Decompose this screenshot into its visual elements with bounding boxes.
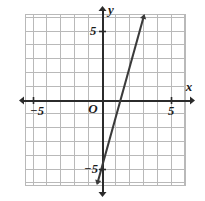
y-tick-label-negative-5: −5 <box>84 162 98 176</box>
y-tick-label-positive-5: 5 <box>90 24 96 38</box>
graph-canvas: x y O −5 5 5 −5 <box>0 0 205 201</box>
x-tick-label-positive-5: 5 <box>168 104 174 118</box>
axis-lines <box>19 6 195 197</box>
y-axis-label: y <box>106 2 114 17</box>
x-axis-label: x <box>185 79 193 94</box>
x-tick-label-negative-5: −5 <box>30 104 44 118</box>
origin-label: O <box>88 101 98 116</box>
coordinate-plane-figure: x y O −5 5 5 −5 <box>0 0 205 201</box>
